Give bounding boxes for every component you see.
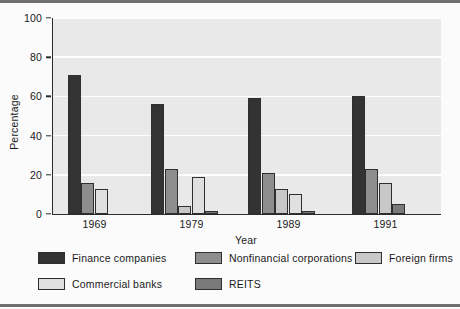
chart-legend: Finance companiesNonfinancial corporatio… xyxy=(38,252,450,298)
bar-group-1969 xyxy=(53,18,150,214)
bar-1979-finance-companies xyxy=(151,104,164,214)
bar-1979-commercial-banks xyxy=(192,177,205,214)
x-axis-tick-1979: 1979 xyxy=(179,218,203,230)
y-axis-tick-0: 0 xyxy=(36,208,42,220)
bar-group-1989 xyxy=(247,18,344,214)
bar-1979-foreign-firms xyxy=(178,206,191,214)
legend-swatch-icon xyxy=(195,278,222,290)
legend-label: Finance companies xyxy=(72,252,166,264)
bar-1991-nonfinancial-corporations xyxy=(365,169,378,214)
legend-item-commercial-banks[interactable]: Commercial banks xyxy=(38,278,162,290)
legend-item-foreign-firms[interactable]: Foreign firms xyxy=(355,252,453,264)
bar-group-1991 xyxy=(344,18,441,214)
legend-item-finance-companies[interactable]: Finance companies xyxy=(38,252,166,264)
legend-item-reits[interactable]: REITS xyxy=(195,278,261,290)
legend-swatch-icon xyxy=(38,252,65,264)
y-axis-tick-mark xyxy=(46,213,51,214)
x-axis-tick-labels: 1969197919891991 xyxy=(52,218,440,234)
bar-1991-reits xyxy=(392,204,405,214)
bars-layer xyxy=(53,18,441,214)
bar-1989-reits xyxy=(302,211,315,214)
legend-swatch-icon xyxy=(355,252,382,264)
bar-1989-commercial-banks xyxy=(289,194,302,214)
legend-label: Foreign firms xyxy=(389,252,453,264)
x-axis-tick-1989: 1989 xyxy=(276,218,300,230)
bar-1969-finance-companies xyxy=(68,75,81,214)
legend-swatch-icon xyxy=(195,252,222,264)
bar-1979-reits xyxy=(205,211,218,214)
bar-1989-foreign-firms xyxy=(275,189,288,214)
bar-1989-nonfinancial-corporations xyxy=(262,173,275,214)
y-axis-tick-80: 80 xyxy=(30,51,42,63)
legend-item-nonfinancial-corporations[interactable]: Nonfinancial corporations xyxy=(195,252,352,264)
y-axis-tick-labels: 020406080100 xyxy=(0,18,48,214)
legend-label: Commercial banks xyxy=(72,278,162,290)
x-axis-tick-1991: 1991 xyxy=(373,218,397,230)
legend-swatch-icon xyxy=(38,278,65,290)
y-axis-tick-100: 100 xyxy=(24,12,42,24)
bar-1969-commercial-banks xyxy=(95,189,108,214)
y-axis-tick-60: 60 xyxy=(30,90,42,102)
page-rule-top xyxy=(0,0,460,3)
y-axis-tick-mark xyxy=(46,174,51,175)
y-axis-tick-mark xyxy=(46,56,51,57)
bar-1979-nonfinancial-corporations xyxy=(165,169,178,214)
legend-label: REITS xyxy=(229,278,261,290)
y-axis-tick-mark xyxy=(46,135,51,136)
y-axis-tick-mark xyxy=(46,17,51,18)
y-axis-tick-20: 20 xyxy=(30,169,42,181)
x-axis-title: Year xyxy=(52,234,440,246)
bar-1991-finance-companies xyxy=(352,96,365,214)
bar-1991-foreign-firms xyxy=(379,183,392,214)
bar-1969-nonfinancial-corporations xyxy=(81,183,94,214)
legend-label: Nonfinancial corporations xyxy=(229,252,352,264)
y-axis-tick-mark xyxy=(46,96,51,97)
y-axis-tick-40: 40 xyxy=(30,130,42,142)
plot-area xyxy=(52,18,441,215)
bar-chart-figure: Percentage 020406080100 1969197919891991… xyxy=(0,0,460,309)
bar-group-1979 xyxy=(150,18,247,214)
page-rule-bottom xyxy=(0,304,460,307)
bar-1989-finance-companies xyxy=(248,98,261,214)
x-axis-tick-1969: 1969 xyxy=(82,218,106,230)
